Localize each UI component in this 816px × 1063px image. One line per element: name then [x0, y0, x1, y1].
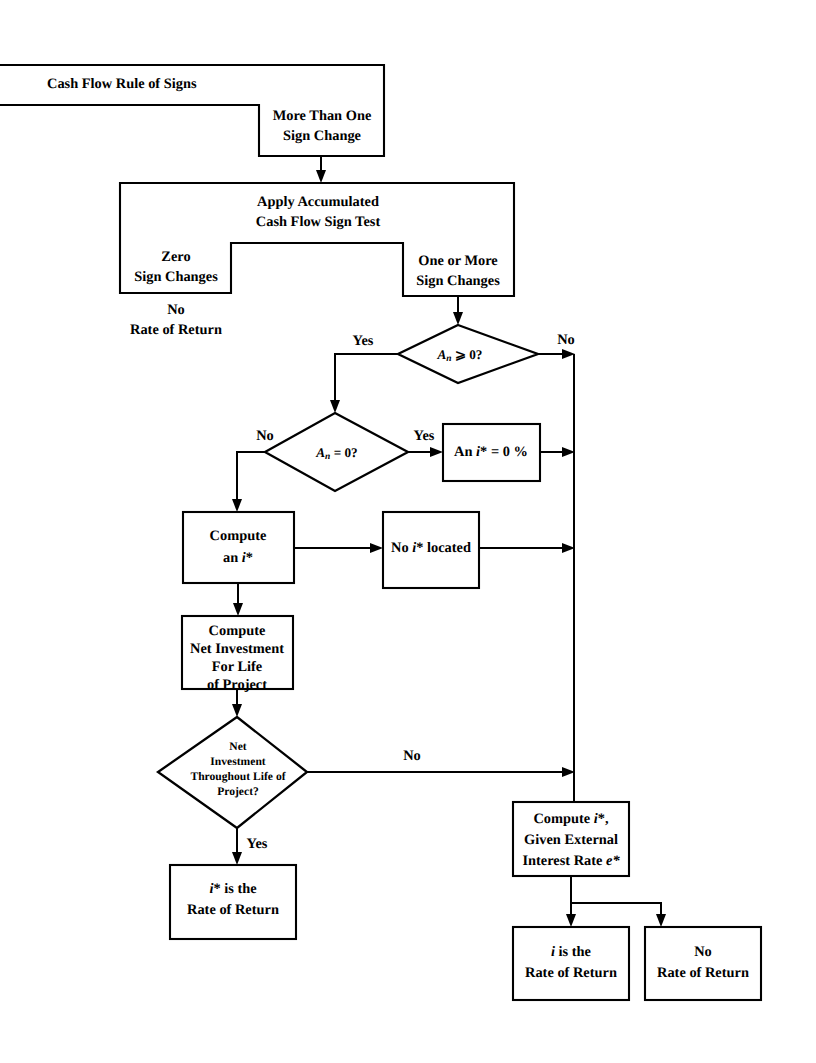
- node-label-one-or-more-line2: Sign Changes: [416, 273, 500, 289]
- edge-label-no-diamond2: No: [256, 428, 274, 444]
- arrowhead-diamond2-yes: [430, 447, 443, 457]
- diamond-an-eq-zero-symbol: A: [315, 445, 325, 460]
- diamond-an-eq-zero-operator: = 0?: [330, 445, 357, 460]
- node-label-compute-an-istar-line2: an i*: [223, 550, 253, 566]
- edge-label-no-net-investment: No: [403, 748, 421, 764]
- edge-label-no-diamond1: No: [557, 332, 575, 348]
- node-label-net-investment-line3: For Life: [212, 659, 263, 675]
- edge-label-yes-net-investment: Yes: [247, 836, 268, 852]
- compute-istar-ext-rate-prefix: Interest Rate: [522, 853, 606, 869]
- arrowhead-to-no-istar-located: [370, 543, 383, 553]
- arrowhead-to-apply-test: [316, 170, 326, 183]
- istar-is-ror-suffix: * is the: [213, 881, 257, 897]
- diamond-label-an-eq-zero: An = 0?: [315, 445, 357, 462]
- node-label-no-rate-right-line2: Rate of Return: [657, 965, 749, 981]
- arrowhead-diamond1-yes: [330, 400, 340, 413]
- node-label-i-is-rate-line1: i is the: [551, 944, 592, 960]
- arrowhead-to-i-is-rate-of-return: [566, 914, 576, 927]
- node-label-an-istar-equals-zero: An i* = 0 %: [454, 444, 528, 460]
- compute-istar-suffix: *: [246, 550, 253, 566]
- diamond-label-net-investment-line2: Investment: [210, 755, 266, 768]
- no-istar-located-prefix: No: [391, 540, 412, 556]
- node-label-apply-accumulated-line2: Cash Flow Sign Test: [256, 214, 381, 230]
- diamond-label-net-investment-line3: Throughout Life of: [190, 770, 285, 783]
- arrowhead-to-net-investment-diamond: [232, 704, 242, 717]
- arrowhead-diamond2-no: [232, 499, 242, 512]
- diamond-label-net-investment-line1: Net: [229, 740, 247, 753]
- node-label-more-than-one-line1: More Than One: [273, 108, 372, 124]
- diamond-an-ge-zero-symbol: A: [437, 347, 447, 362]
- box-no-rate-of-return-right: [645, 927, 761, 1000]
- i-is-ror-suffix: is the: [555, 944, 592, 960]
- flowchart-canvas: Cash Flow Rule of Signs More Than One Si…: [0, 0, 816, 1063]
- node-label-net-investment-line1: Compute: [209, 623, 266, 639]
- node-label-more-than-one-line2: Sign Change: [283, 128, 362, 144]
- connector-compute-ext-to-no-ror: [571, 903, 661, 918]
- box-compute-an-istar: [183, 512, 294, 583]
- node-label-no-rate-of-return-left-line1: No: [167, 302, 185, 318]
- compute-istar-ext-prefix: Compute: [533, 811, 593, 827]
- edge-label-yes-diamond1: Yes: [353, 333, 374, 349]
- node-label-istar-is-rate-line2: Rate of Return: [187, 902, 279, 918]
- diamond-label-net-investment-line4: Project?: [217, 785, 259, 798]
- flowchart-diagram: Cash Flow Rule of Signs More Than One Si…: [0, 0, 816, 1063]
- node-label-compute-istar-ext-line3: Interest Rate e*: [522, 853, 620, 869]
- node-label-compute-an-istar-line1: Compute: [210, 528, 267, 544]
- node-label-cash-flow-rule-of-signs: Cash Flow Rule of Signs: [47, 76, 197, 92]
- node-label-zero-sign-changes-line1: Zero: [161, 249, 190, 265]
- arrowhead-to-compute-net-investment: [233, 603, 243, 616]
- compute-istar-prefix: an: [223, 550, 242, 566]
- node-label-zero-sign-changes-line2: Sign Changes: [134, 269, 218, 285]
- node-label-compute-istar-ext-line2: Given External: [524, 832, 618, 848]
- node-label-one-or-more-line1: One or More: [418, 253, 498, 269]
- connector-diamond2-no-to-compute: [237, 452, 265, 503]
- node-label-net-investment-line2: Net Investment: [190, 641, 284, 657]
- node-label-i-is-rate-line2: Rate of Return: [525, 965, 617, 981]
- compute-istar-ext-suffix: *,: [598, 811, 609, 827]
- diamond-label-an-ge-zero: An ⩾ 0?: [437, 347, 483, 364]
- compute-istar-ext-rate-symbol: e*: [606, 853, 620, 869]
- box-i-is-rate-of-return: [513, 927, 629, 1000]
- arrowhead-to-diamond-an-ge-0: [453, 312, 463, 325]
- an-istar-zero-prefix: An: [454, 444, 476, 460]
- node-label-istar-is-rate-line1: i* is the: [209, 881, 257, 897]
- node-label-no-rate-right-line1: No: [694, 944, 712, 960]
- node-label-apply-accumulated-line1: Apply Accumulated: [257, 194, 379, 210]
- edge-label-yes-diamond2: Yes: [414, 428, 435, 444]
- an-istar-zero-suffix: * = 0 %: [480, 444, 528, 460]
- arrowhead-to-no-rate-of-return-right: [656, 914, 666, 927]
- node-label-no-istar-located: No i* located: [391, 540, 471, 556]
- no-istar-located-suffix: * located: [416, 540, 471, 556]
- connector-diamond1-yes-to-diamond2: [335, 354, 398, 404]
- node-label-no-rate-of-return-left-line2: Rate of Return: [130, 322, 222, 338]
- arrowhead-net-inv-yes: [232, 852, 242, 865]
- diamond-an-ge-zero-operator: ⩾ 0?: [452, 347, 483, 362]
- node-label-compute-istar-ext-line1: Compute i*,: [533, 811, 609, 827]
